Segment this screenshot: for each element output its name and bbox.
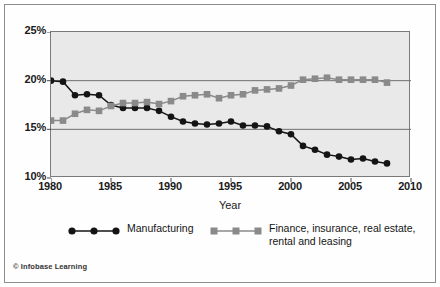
plot-svg	[51, 32, 411, 178]
data-point	[96, 108, 103, 115]
data-point	[132, 100, 139, 107]
data-point	[264, 86, 271, 93]
data-point	[288, 82, 295, 89]
legend-marker-circle-icon	[66, 223, 122, 241]
data-point	[204, 91, 211, 98]
data-point	[240, 91, 247, 98]
y-axis-tick-label: 25%	[2, 24, 46, 36]
y-axis-tick-label: 20%	[2, 73, 46, 85]
data-point	[300, 76, 307, 83]
data-point	[108, 103, 115, 110]
data-point	[156, 108, 163, 115]
x-axis: 1980198519901995200020052010	[0, 180, 440, 196]
y-axis-tick-label: 15%	[2, 121, 46, 133]
y-tick-marks	[47, 32, 52, 180]
data-point	[180, 93, 187, 100]
x-axis-title: Year	[50, 199, 410, 211]
data-point	[276, 85, 283, 92]
series-finance	[51, 74, 390, 123]
data-point	[360, 155, 367, 162]
plot-area	[50, 31, 410, 177]
data-point	[276, 128, 283, 135]
data-point	[336, 153, 343, 160]
y-axis: 25%20%15%10%	[0, 0, 46, 287]
data-point	[348, 76, 355, 83]
data-point	[156, 101, 163, 108]
data-point	[384, 79, 391, 86]
data-point	[192, 92, 199, 99]
x-axis-tick-label: 1995	[207, 180, 253, 192]
data-point	[264, 123, 271, 130]
legend-marker-square-icon	[208, 223, 264, 241]
x-axis-tick-label: 1990	[147, 180, 193, 192]
data-point	[252, 122, 259, 129]
data-point	[204, 121, 211, 128]
data-point	[120, 100, 127, 107]
data-point	[96, 92, 103, 99]
data-point	[300, 143, 307, 150]
data-point	[168, 113, 175, 120]
data-point	[312, 75, 319, 82]
legend-item-manufacturing: Manufacturing	[66, 222, 194, 241]
data-point	[72, 110, 79, 117]
x-axis-tick-label: 1985	[87, 180, 133, 192]
data-point	[168, 98, 175, 105]
data-point	[372, 158, 379, 165]
data-point	[144, 105, 151, 112]
data-point	[324, 74, 331, 81]
data-point	[348, 156, 355, 163]
x-axis-tick-label: 2010	[387, 180, 433, 192]
data-point	[336, 76, 343, 83]
data-point	[60, 117, 67, 124]
data-point	[192, 120, 199, 127]
x-axis-tick-label: 2005	[327, 180, 373, 192]
legend-item-finance: Finance, insurance, real estate, rental …	[208, 222, 416, 247]
x-axis-tick-label: 2000	[267, 180, 313, 192]
data-point	[312, 146, 319, 153]
data-point	[252, 87, 259, 94]
data-point	[324, 151, 331, 158]
data-point	[228, 92, 235, 99]
data-point	[216, 120, 223, 127]
series-manufacturing	[51, 77, 390, 166]
data-point	[240, 122, 247, 129]
data-point	[288, 131, 295, 138]
copyright-credit: © Infobase Learning	[13, 262, 87, 271]
series-layer	[51, 74, 390, 166]
chart-figure: 25%20%15%10% 198019851990199520002005201…	[0, 0, 440, 287]
legend-label-finance: Finance, insurance, real estate, rental …	[264, 222, 416, 247]
data-point	[84, 107, 91, 114]
data-point	[360, 76, 367, 83]
data-point	[180, 118, 187, 125]
data-point	[60, 78, 67, 85]
data-point	[372, 76, 379, 83]
data-point	[216, 95, 223, 102]
x-axis-tick-label: 1980	[27, 180, 73, 192]
data-point	[72, 92, 79, 99]
chart-legend: Manufacturing Finance, insurance, real e…	[56, 222, 426, 260]
legend-label-manufacturing: Manufacturing	[122, 222, 194, 235]
data-point	[84, 91, 91, 98]
data-point	[144, 99, 151, 106]
data-point	[384, 160, 391, 167]
data-point	[228, 118, 235, 125]
